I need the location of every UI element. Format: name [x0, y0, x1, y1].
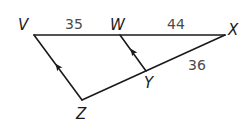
length-label-wx: 44 [167, 16, 185, 32]
length-label-vw: 35 [65, 16, 83, 32]
vertex-label-w: W [110, 16, 126, 34]
vertex-label-z: Z [75, 105, 87, 123]
vertex-label-v: V [18, 16, 30, 34]
length-label-yx: 36 [188, 57, 206, 73]
triangle-diagram: V W X Y Z 35 44 36 [0, 0, 247, 128]
vertex-label-x: X [227, 21, 239, 39]
vertex-label-y: Y [144, 74, 155, 92]
